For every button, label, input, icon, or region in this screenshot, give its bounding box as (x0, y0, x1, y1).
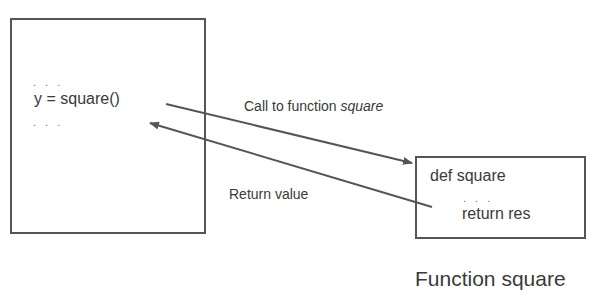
arrows-layer (0, 0, 597, 297)
call-arrow (166, 104, 412, 163)
return-arrow (150, 123, 432, 207)
